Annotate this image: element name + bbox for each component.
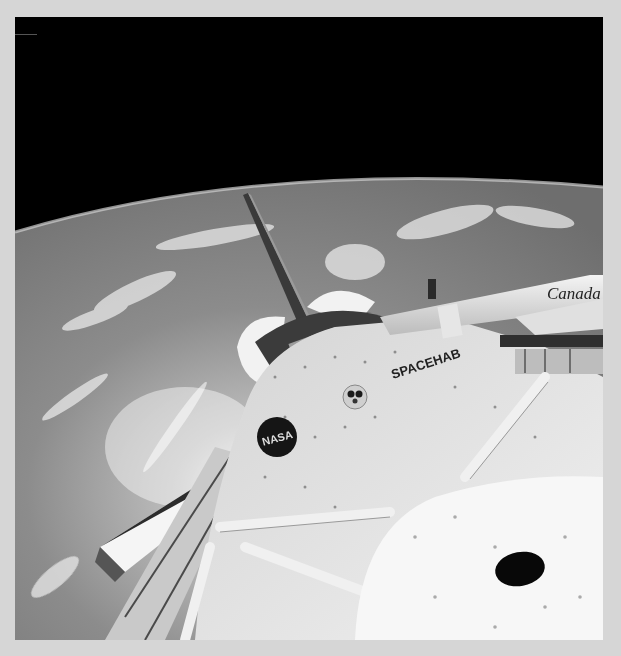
canadarm-camera: [428, 279, 436, 299]
canadarm-label: Canada: [547, 284, 601, 303]
starboard-sill: [500, 335, 603, 347]
frame-edge-mark: [15, 34, 37, 35]
photo-scene: NASA SPACEHAB Canada: [15, 17, 603, 640]
module-port: [343, 385, 367, 409]
photo: NASA SPACEHAB Canada: [15, 17, 603, 640]
